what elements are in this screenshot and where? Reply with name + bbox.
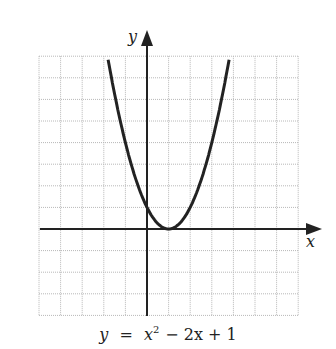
y-axis-label: y [127,27,138,46]
equation-caption: y = x2− 2x + 1 [98,324,237,344]
x-axis-label: x [306,232,315,251]
grid [39,56,298,315]
graph: y x y = x2− 2x + 1 [0,0,336,349]
y-axis-arrow-icon [141,30,153,46]
